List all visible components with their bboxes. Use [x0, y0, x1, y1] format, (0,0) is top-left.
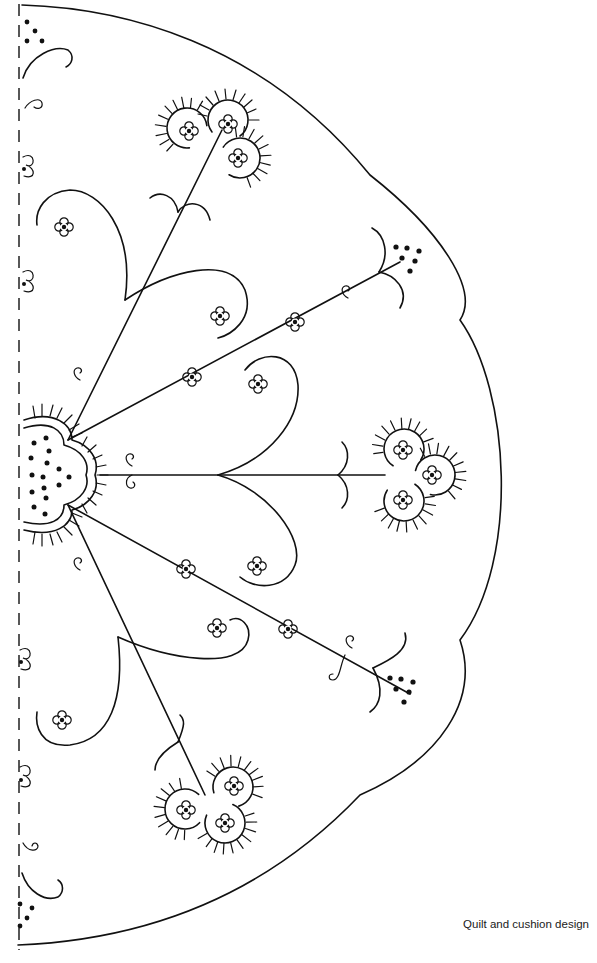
leaves: [37, 190, 406, 770]
small-flowers: [53, 218, 304, 729]
quilt-design-drawing: [0, 0, 597, 963]
trefoil-flower-top: [145, 86, 280, 193]
dot-cluster-upper: [393, 244, 421, 273]
design-caption: Quilt and cushion design: [463, 918, 589, 930]
trefoil-flower-bottom: [149, 748, 273, 866]
stems: [68, 130, 410, 795]
edge-motifs: [18, 20, 72, 929]
